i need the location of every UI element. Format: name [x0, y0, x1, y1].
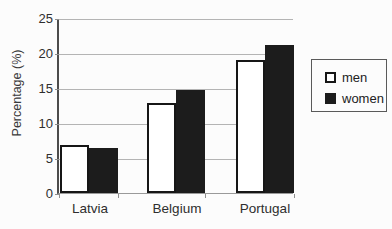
- y-tick-label-25: 25: [0, 11, 53, 27]
- bar-women-latvia: [89, 148, 118, 194]
- gridline-25: [59, 19, 293, 20]
- legend-item-women: women: [325, 88, 386, 109]
- x-axis-label-latvia: Latvia: [45, 201, 135, 216]
- x-tick-mark-1: [118, 194, 119, 198]
- legend-item-men: men: [325, 67, 386, 88]
- gridline-20: [59, 54, 293, 55]
- y-tick-label-20: 20: [0, 46, 53, 62]
- bar-men-latvia: [60, 145, 89, 193]
- legend-box: menwomen: [311, 59, 387, 112]
- y-tick-mark-25: [55, 19, 59, 20]
- legend-men-swatch: [325, 72, 336, 83]
- y-tick-mark-5: [55, 159, 59, 160]
- x-tick-mark-3: [294, 194, 295, 198]
- y-tick-label-0: 0: [0, 186, 53, 202]
- x-axis-label-portugal: Portugal: [220, 201, 310, 216]
- bar-women-portugal: [265, 45, 294, 193]
- x-tick-mark-2: [205, 194, 206, 198]
- y-tick-label-5: 5: [0, 151, 53, 167]
- bar-men-belgium: [147, 103, 176, 193]
- bar-women-belgium: [176, 90, 205, 193]
- y-tick-mark-15: [55, 89, 59, 90]
- y-tick-label-15: 15: [0, 81, 53, 97]
- x-axis-label-belgium: Belgium: [132, 201, 222, 216]
- x-tick-mark-0: [59, 194, 60, 198]
- bar-men-portugal: [236, 60, 265, 193]
- legend-women-swatch: [325, 93, 336, 104]
- plot-area: [57, 19, 293, 194]
- y-tick-mark-20: [55, 54, 59, 55]
- legend-women-label: women: [342, 92, 384, 105]
- bar-chart-figure: Percentage (%) menwomen 0510152025Latvia…: [0, 0, 392, 229]
- legend-men-label: men: [342, 71, 367, 84]
- y-tick-mark-10: [55, 124, 59, 125]
- y-tick-label-10: 10: [0, 116, 53, 132]
